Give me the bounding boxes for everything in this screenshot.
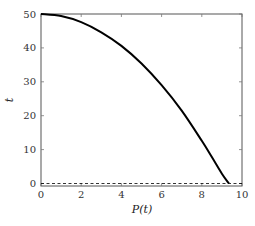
- y-axis-label: t: [3, 97, 16, 102]
- x-tick-label: 0: [38, 189, 44, 200]
- data-series: [41, 14, 242, 184]
- y-tick-label: 30: [23, 76, 36, 87]
- plot-border: [41, 14, 242, 186]
- x-axis-label: P(t): [131, 203, 152, 216]
- axis-ticks: 024681001020304050: [23, 9, 248, 201]
- x-tick-label: 2: [78, 189, 84, 200]
- x-tick-label: 6: [158, 189, 164, 200]
- y-tick-label: 0: [30, 178, 36, 189]
- y-tick-label: 10: [23, 144, 36, 155]
- y-tick-label: 40: [23, 42, 36, 53]
- x-tick-label: 8: [199, 189, 205, 200]
- line-chart: 024681001020304050 P(t) t: [0, 0, 255, 226]
- y-tick-label: 20: [23, 110, 36, 121]
- curve-line: [41, 14, 229, 184]
- y-tick-label: 50: [23, 9, 36, 20]
- x-tick-label: 10: [236, 189, 249, 200]
- plot-frame: [41, 14, 242, 186]
- x-tick-label: 4: [118, 189, 124, 200]
